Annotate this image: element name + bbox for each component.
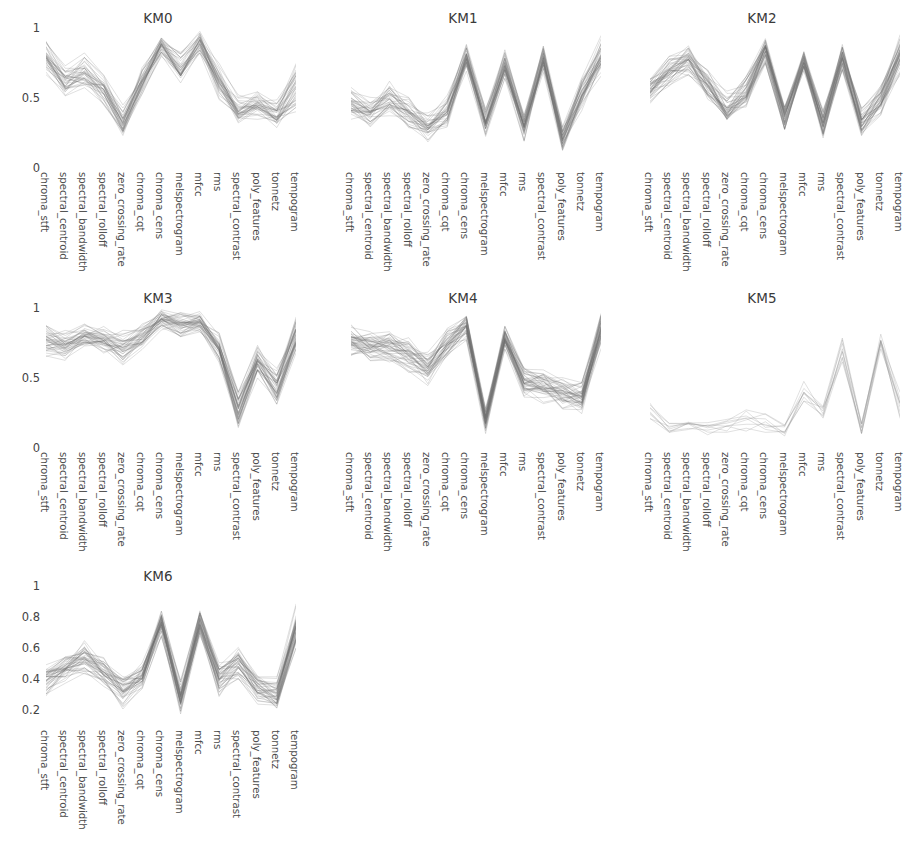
sample-line — [46, 314, 296, 413]
panel-km6: KM610.80.60.40.2chroma_stftspectral_cent… — [8, 564, 308, 842]
x-tick-label: spectral_contrast — [231, 172, 242, 260]
x-tick-label: poly_features — [251, 452, 262, 521]
x-tick-label: spectral_rolloff — [402, 452, 413, 527]
x-tick-label: poly_features — [556, 172, 567, 241]
panel-km4: KM4chroma_stftspectral_centroidspectral_… — [313, 286, 613, 564]
y-axis-ticks — [612, 28, 646, 168]
x-tick-label: chroma_stft — [344, 452, 355, 512]
series-lines — [650, 28, 900, 168]
x-tick-label: spectral_bandwidth — [382, 452, 393, 552]
x-tick-label: chroma_cqt — [440, 452, 451, 512]
x-tick-label: chroma_stft — [39, 452, 50, 512]
x-tick-label: poly_features — [855, 172, 866, 241]
x-tick-label: spectral_bandwidth — [681, 172, 692, 272]
x-tick-label: tonnetz — [270, 730, 281, 769]
x-tick-label: mfcc — [797, 172, 808, 197]
x-tick-label: chroma_stft — [643, 452, 654, 512]
x-axis-labels: chroma_stftspectral_centroidspectral_ban… — [650, 172, 900, 284]
x-tick-label: poly_features — [251, 730, 262, 799]
sample-line — [650, 334, 900, 427]
x-axis-labels: chroma_stftspectral_centroidspectral_ban… — [46, 452, 296, 564]
x-tick-label: chroma_cqt — [135, 452, 146, 512]
x-tick-label: chroma_stft — [344, 172, 355, 232]
panel-title: KM2 — [612, 10, 912, 26]
plot-area — [650, 28, 900, 168]
y-axis-ticks: 10.50 — [8, 28, 42, 168]
x-tick-label: melspectrogram — [778, 452, 789, 536]
panel-title: KM1 — [313, 10, 613, 26]
y-tick-label: 0.5 — [22, 91, 40, 105]
x-tick-label: spectral_bandwidth — [77, 452, 88, 552]
series-lines — [46, 308, 296, 448]
x-tick-label: rms — [816, 172, 827, 191]
x-tick-label: melspectrogram — [174, 172, 185, 256]
y-tick-label: 0.8 — [22, 610, 40, 624]
x-tick-label: chroma_cens — [758, 452, 769, 519]
x-tick-label: zero_crossing_rate — [421, 172, 432, 267]
x-tick-label: chroma_cqt — [135, 172, 146, 232]
x-axis-labels: chroma_stftspectral_centroidspectral_ban… — [46, 172, 296, 284]
x-tick-label: poly_features — [855, 452, 866, 521]
x-tick-label: chroma_stft — [39, 730, 50, 790]
x-tick-label: poly_features — [251, 172, 262, 241]
x-tick-label: zero_crossing_rate — [720, 172, 731, 267]
x-tick-label: spectral_contrast — [835, 452, 846, 540]
x-tick-label: zero_crossing_rate — [720, 452, 731, 547]
y-tick-label: 0.4 — [22, 672, 40, 686]
x-tick-label: chroma_cens — [459, 452, 470, 519]
panel-title: KM0 — [8, 10, 308, 26]
sample-line — [46, 35, 296, 126]
panel-km0: KM010.50chroma_stftspectral_centroidspec… — [8, 6, 308, 284]
x-tick-label: chroma_cens — [154, 172, 165, 239]
x-tick-label: spectral_centroid — [662, 452, 673, 540]
x-tick-label: zero_crossing_rate — [116, 452, 127, 547]
panel-km3: KM310.50chroma_stftspectral_centroidspec… — [8, 286, 308, 564]
x-tick-label: melspectrogram — [174, 730, 185, 814]
panel-title: KM6 — [8, 568, 308, 584]
y-tick-label: 0.5 — [22, 371, 40, 385]
x-tick-label: spectral_centroid — [363, 452, 374, 540]
panel-title: KM3 — [8, 290, 308, 306]
series-lines — [351, 28, 601, 168]
x-tick-label: spectral_centroid — [58, 172, 69, 260]
x-tick-label: chroma_stft — [643, 172, 654, 232]
x-tick-label: spectral_rolloff — [97, 452, 108, 527]
x-tick-label: tempogram — [289, 730, 300, 790]
x-tick-label: spectral_contrast — [835, 172, 846, 260]
plot-area — [650, 308, 900, 448]
parallel-coordinates-figure: KM010.50chroma_stftspectral_centroidspec… — [0, 0, 923, 852]
x-tick-label: rms — [816, 452, 827, 471]
y-tick-label: 0.6 — [22, 641, 40, 655]
x-tick-label: spectral_centroid — [58, 730, 69, 818]
y-axis-ticks: 10.80.60.40.2 — [8, 586, 42, 726]
x-tick-label: tempogram — [594, 172, 605, 232]
x-tick-label: spectral_bandwidth — [77, 730, 88, 830]
x-tick-label: chroma_cens — [758, 172, 769, 239]
x-tick-label: chroma_cqt — [739, 452, 750, 512]
x-tick-label: chroma_cens — [154, 730, 165, 797]
plot-area — [46, 28, 296, 168]
panel-title: KM4 — [313, 290, 613, 306]
x-tick-label: spectral_centroid — [363, 172, 374, 260]
x-tick-label: tonnetz — [874, 452, 885, 491]
panel-km5: KM5chroma_stftspectral_centroidspectral_… — [612, 286, 912, 564]
sample-line — [46, 606, 296, 686]
x-tick-label: melspectrogram — [479, 172, 490, 256]
sample-line — [650, 338, 900, 429]
x-tick-label: tonnetz — [575, 452, 586, 491]
x-tick-label: spectral_centroid — [662, 172, 673, 260]
y-axis-ticks — [313, 28, 347, 168]
x-tick-label: chroma_cens — [154, 452, 165, 519]
x-tick-label: spectral_bandwidth — [77, 172, 88, 272]
x-tick-label: mfcc — [193, 452, 204, 477]
series-lines — [351, 308, 601, 448]
x-tick-label: zero_crossing_rate — [421, 452, 432, 547]
x-tick-label: tempogram — [594, 452, 605, 512]
x-tick-label: spectral_contrast — [536, 452, 547, 540]
x-tick-label: spectral_rolloff — [402, 172, 413, 247]
panel-title: KM5 — [612, 290, 912, 306]
x-tick-label: mfcc — [498, 172, 509, 197]
x-tick-label: chroma_cens — [459, 172, 470, 239]
plot-area — [351, 308, 601, 448]
y-axis-ticks — [313, 308, 347, 448]
